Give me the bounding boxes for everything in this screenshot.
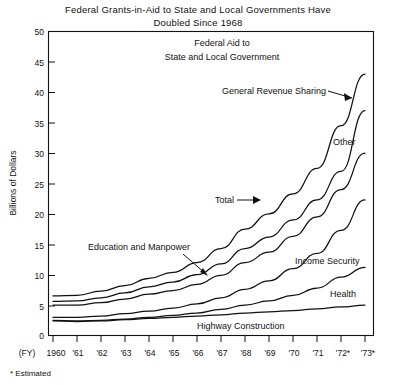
y-tick-label: 0 [39,331,44,341]
series-line-other [53,111,365,302]
y-tick-label: 45 [35,58,45,68]
series-line-education-and-manpower [53,153,365,305]
annotation-other: Other [333,137,356,147]
annotation-general-revenue-sharing: General Revenue Sharing [222,86,352,101]
x-tick-label: '73* [361,348,376,358]
x-axis-ticks [53,336,365,343]
y-tick-label: 30 [35,149,45,159]
chart-svg: Federal Grants-in-Aid to State and Local… [0,0,397,385]
plot-frame [49,32,374,336]
series-label-health: Health [330,289,356,299]
y-axis-ticks: 50 45 40 35 30 25 20 15 10 5 0 [35,27,55,341]
series-line-highway-construction [53,305,365,321]
x-tick-label: 1960 [47,348,66,358]
series-label-income-security: Income Security [295,256,360,266]
annotation-education-and-manpower: Education and Manpower [88,242,208,276]
y-tick-label: 15 [35,241,45,251]
x-axis-label: (FY) [19,348,36,358]
y-tick-label: 5 [39,302,44,312]
x-tick-label: '64 [144,348,155,358]
series-line-health [53,267,365,321]
x-tick-label: '63 [120,348,131,358]
chart-title-line2: Doubled Since 1968 [153,17,242,28]
x-tick-label: '62 [96,348,107,358]
y-tick-label: 10 [35,271,45,281]
annotation-income-security: Income Security [295,256,360,266]
annotation-highway-construction: Highway Construction [197,321,285,331]
y-tick-label: 35 [35,119,45,129]
chart-figure: Federal Grants-in-Aid to State and Local… [0,0,397,385]
x-tick-label: '68 [240,348,251,358]
x-tick-label: '72* [336,348,351,358]
series-label-other: Other [333,137,356,147]
x-tick-label: '66 [192,348,203,358]
inner-title-line2: State and Local Government [165,52,280,62]
x-tick-label: '65 [168,348,179,358]
x-tick-label: '69 [264,348,275,358]
chart-title-line1: Federal Grants-in-Aid to State and Local… [65,4,331,15]
y-tick-label: 20 [35,210,45,220]
series-label-general-revenue-sharing: General Revenue Sharing [222,86,326,96]
x-axis-tick-labels: (FY) 1960 '61 '62 '63 '64 '65 '66 '67 '6… [19,348,376,358]
series-label-education-and-manpower: Education and Manpower [88,242,190,252]
x-tick-label: '70 [288,348,299,358]
y-tick-label: 25 [35,180,45,190]
y-axis-label: Billions of Dollars [8,150,18,215]
x-tick-label: '71 [312,348,323,358]
y-tick-label: 50 [35,27,45,37]
annotation-total: Total [215,195,261,205]
series-lines [53,74,365,321]
series-label-total: Total [215,195,234,205]
annotation-health: Health [330,289,356,299]
x-tick-label: '61 [72,348,83,358]
inner-title-line1: Federal Aid to [194,38,250,48]
footnote: * Estimated [10,369,51,378]
y-tick-label: 40 [35,88,45,98]
x-tick-label: '67 [216,348,227,358]
series-label-highway-construction: Highway Construction [197,321,285,331]
